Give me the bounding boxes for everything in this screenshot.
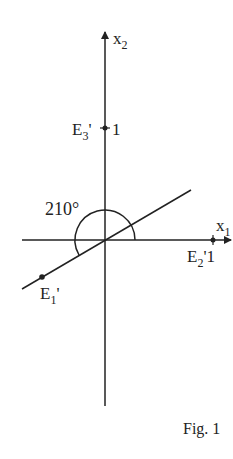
coordinate-diagram: x2 x1 E3' 1 E2'1 E1' 210° Fig. 1 (0, 0, 233, 459)
x1-axis-label: x1 (216, 216, 231, 239)
e1-label: E1' (40, 284, 59, 307)
figure-caption: Fig. 1 (183, 420, 220, 438)
e2-label: E2'1 (187, 247, 215, 270)
point-e1 (39, 274, 45, 280)
e3-label: E3' (72, 120, 91, 143)
e3-value: 1 (112, 120, 121, 139)
angle-label: 210° (45, 199, 79, 219)
x2-axis-label: x2 (113, 29, 128, 52)
